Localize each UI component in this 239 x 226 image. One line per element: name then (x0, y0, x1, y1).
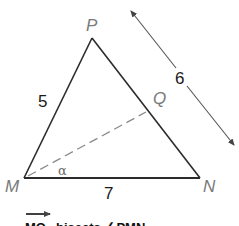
caption-ray: MQ (25, 220, 46, 226)
triangle-diagram: P Q M N 5 6 7 α MQ bisects ∠PMN (0, 0, 239, 226)
dimension-arrow-upper (131, 11, 176, 68)
vertex-label-p: P (86, 16, 98, 35)
angle-label-alpha: α (58, 163, 67, 178)
side-pn (92, 38, 200, 178)
side-label-mp: 5 (38, 92, 47, 111)
vertex-label-q: Q (153, 89, 166, 108)
vertex-label-m: M (5, 177, 20, 196)
caption-text: bisects ∠PMN (56, 220, 145, 226)
side-mp (24, 38, 92, 178)
bisector-mq (28, 112, 146, 176)
side-label-pn: 6 (175, 69, 184, 88)
side-label-mn: 7 (104, 184, 113, 203)
dimension-arrow-lower (187, 86, 234, 145)
vertex-label-n: N (203, 177, 216, 196)
